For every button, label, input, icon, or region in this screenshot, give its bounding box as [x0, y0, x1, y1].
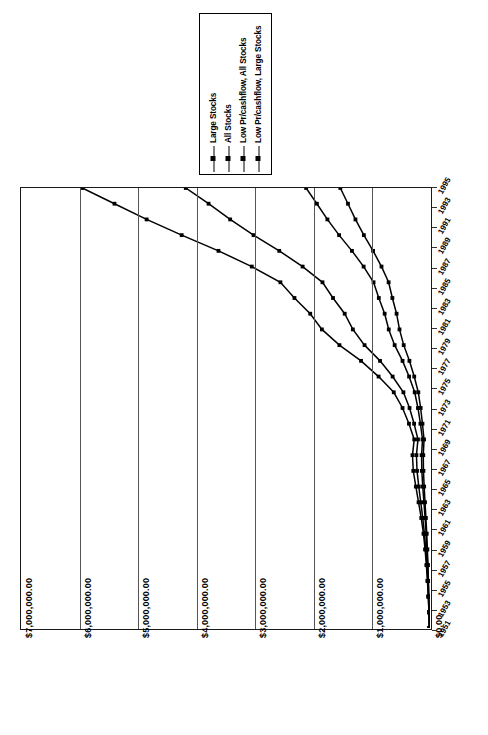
data-point	[387, 280, 391, 284]
legend-label: All Stocks	[223, 104, 233, 143]
data-point	[315, 202, 319, 206]
data-point	[401, 406, 405, 410]
category-tick-label: 1971	[436, 417, 453, 437]
category-tick-label: 1987	[436, 256, 453, 276]
data-point	[407, 422, 411, 426]
gridline-1000000	[372, 188, 373, 629]
data-point	[425, 548, 429, 552]
data-point	[392, 390, 396, 394]
category-tick	[432, 469, 437, 470]
data-point	[308, 312, 312, 316]
data-point	[377, 375, 381, 379]
legend-item-1: All Stocks	[221, 13, 236, 172]
data-point	[350, 249, 354, 253]
category-tick	[432, 388, 437, 389]
data-point	[207, 202, 211, 206]
value-tick-label: $1,000,000.00	[375, 578, 385, 638]
category-tick	[432, 429, 437, 430]
data-point	[80, 188, 84, 190]
data-point	[362, 265, 366, 269]
data-point	[425, 532, 429, 536]
data-point	[378, 359, 382, 363]
value-tick-label: $7,000,000.00	[24, 578, 34, 638]
data-point	[301, 265, 305, 269]
data-point	[395, 312, 399, 316]
category-tick-label: 1959	[436, 538, 453, 558]
data-point	[402, 343, 406, 347]
legend-label: Low Pr/cashflow, Large Stocks	[253, 26, 263, 143]
legend-item-2: Low Pr/cashflow, All Stocks	[236, 13, 251, 172]
category-tick	[432, 610, 437, 611]
data-point	[407, 375, 411, 379]
category-tick-label: 1973	[436, 397, 453, 417]
data-point	[380, 265, 384, 269]
data-point	[422, 438, 426, 442]
category-tick	[432, 268, 437, 269]
data-point	[411, 469, 415, 473]
data-point	[391, 375, 395, 379]
category-tick-label: 1979	[436, 337, 453, 357]
data-point	[228, 218, 232, 222]
data-point	[383, 312, 387, 316]
category-tick-label: 1983	[436, 297, 453, 317]
legend-items-container: Large Stocks All Stocks Low Pr/cashflow,…	[199, 13, 272, 175]
data-point	[113, 202, 117, 206]
category-tick-label: 1953	[436, 599, 453, 619]
data-point	[320, 328, 324, 332]
data-point	[427, 610, 430, 614]
line-marker-icon	[223, 146, 234, 172]
gridline-6000000	[80, 188, 81, 629]
data-point	[413, 390, 417, 394]
legend-label: Large Stocks	[208, 93, 218, 143]
data-point	[415, 469, 419, 473]
gridline-7000000	[21, 188, 22, 629]
data-point	[398, 328, 402, 332]
data-point	[279, 280, 283, 284]
data-point	[427, 595, 430, 599]
data-point	[304, 188, 308, 190]
data-point	[346, 202, 350, 206]
data-point	[423, 500, 427, 504]
data-point	[415, 453, 419, 457]
value-tick-label: $5,000,000.00	[141, 578, 151, 638]
data-point	[416, 438, 420, 442]
category-tick-label: 1993	[436, 196, 453, 216]
data-point	[359, 359, 363, 363]
gridline-2000000	[314, 188, 315, 629]
data-point	[184, 188, 188, 190]
category-tick	[432, 570, 437, 571]
category-tick	[432, 288, 437, 289]
category-tick	[432, 308, 437, 309]
data-point	[422, 485, 426, 489]
data-point	[337, 233, 341, 237]
category-tick-label: 1969	[436, 438, 453, 458]
data-point	[416, 390, 420, 394]
value-tick-label: $6,000,000.00	[83, 578, 93, 638]
category-tick	[432, 207, 437, 208]
data-point	[411, 453, 415, 457]
category-tick	[432, 409, 437, 410]
data-point	[428, 626, 430, 628]
data-point	[401, 359, 405, 363]
category-tick	[432, 550, 437, 551]
category-tick	[432, 348, 437, 349]
category-tick	[432, 529, 437, 530]
category-tick-label: 1955	[436, 579, 453, 599]
gridline-4000000	[197, 188, 198, 629]
category-tick	[432, 247, 437, 248]
category-tick-label: 1963	[436, 498, 453, 518]
data-point	[421, 422, 425, 426]
category-tick	[432, 328, 437, 329]
data-point	[145, 218, 149, 222]
data-point	[417, 485, 421, 489]
category-tick	[432, 630, 437, 631]
data-point	[326, 218, 330, 222]
data-point	[424, 516, 428, 520]
legend-item-3: Low Pr/cashflow, Large Stocks	[251, 13, 266, 172]
data-point	[338, 343, 342, 347]
category-tick-label: 1965	[436, 478, 453, 498]
data-point	[390, 296, 394, 300]
data-point	[343, 312, 347, 316]
data-point	[180, 233, 184, 237]
data-point	[427, 579, 430, 583]
